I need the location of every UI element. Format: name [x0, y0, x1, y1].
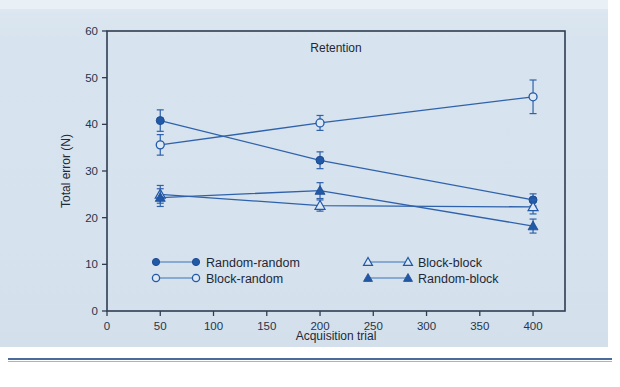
- x-tick-label: 300: [417, 320, 436, 332]
- marker-open-circle: [192, 274, 199, 281]
- y-tick-label: 30: [85, 165, 98, 177]
- series-polyline: [160, 97, 533, 145]
- legend-item-random-block[interactable]: Random-block: [364, 272, 500, 286]
- series-random-random: [156, 110, 537, 206]
- marker-filled-circle: [152, 258, 159, 265]
- y-axis-ticks: 0102030405060: [85, 25, 107, 317]
- x-tick-label: 100: [204, 320, 223, 332]
- data-series-layer: [155, 80, 538, 233]
- y-tick-label: 40: [85, 118, 98, 130]
- legend-item-block-block[interactable]: Block-block: [364, 256, 483, 270]
- x-tick-label: 400: [523, 320, 542, 332]
- series-polyline: [160, 194, 533, 207]
- y-tick-label: 60: [85, 25, 98, 37]
- legend-label: Block-block: [418, 256, 483, 270]
- marker-open-circle: [156, 141, 164, 149]
- x-tick-label: 150: [257, 320, 276, 332]
- marker-open-circle: [529, 93, 537, 101]
- y-tick-label: 20: [85, 212, 98, 224]
- y-tick-label: 50: [85, 72, 98, 84]
- series-polyline: [160, 121, 533, 200]
- legend-label: Random-block: [418, 272, 499, 286]
- legend-item-random-random[interactable]: Random-random: [152, 256, 299, 270]
- legend-label: Random-random: [206, 256, 300, 270]
- marker-open-circle: [316, 119, 324, 127]
- marker-filled-circle: [192, 258, 199, 265]
- plot-frame: [107, 31, 565, 311]
- legend-item-block-random[interactable]: Block-random: [152, 272, 283, 286]
- x-tick-label: 50: [154, 320, 167, 332]
- x-axis-title: Acquisition trial: [296, 329, 377, 343]
- x-tick-label: 350: [470, 320, 489, 332]
- series-block-random: [156, 80, 537, 155]
- x-tick-label: 0: [104, 320, 110, 332]
- retention-annotation: Retention: [310, 41, 361, 55]
- marker-filled-circle: [156, 117, 164, 125]
- chart-legend: Random-randomBlock-randomBlock-blockRand…: [152, 256, 499, 286]
- marker-open-circle: [152, 274, 159, 281]
- y-axis-title: Total error (N): [59, 134, 73, 208]
- marker-filled-triangle: [315, 186, 325, 195]
- marker-filled-circle: [316, 156, 324, 164]
- series-polyline: [160, 191, 533, 226]
- retention-line-chart: 0102030405060 050100150200250300350400 A…: [0, 0, 620, 387]
- legend-label: Block-random: [206, 272, 283, 286]
- y-tick-label: 10: [85, 258, 98, 270]
- figure-page: 0102030405060 050100150200250300350400 A…: [0, 0, 620, 387]
- y-tick-label: 0: [92, 305, 98, 317]
